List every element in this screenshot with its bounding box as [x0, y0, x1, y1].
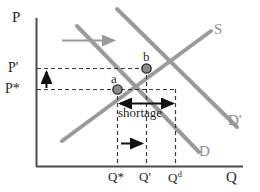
quantity-tick-q-d-superscript: d [177, 169, 182, 179]
axis-label-quantity: Q [226, 170, 237, 185]
point-a-marker [113, 85, 122, 94]
quantity-tick-q-star-text: Q* [108, 169, 124, 184]
axis-label-price: P [12, 10, 20, 25]
curve-label-demand-shifted: D' [228, 113, 242, 128]
point-label-a: a [111, 72, 117, 85]
point-label-b: b [143, 50, 150, 63]
supply-demand-chart: P Q P' P* Q* Q' Qd S D D' a b shortage [0, 0, 260, 192]
quantity-tick-q-d: Qd [168, 170, 182, 184]
quantity-tick-q-star: Q* [108, 170, 124, 183]
price-tick-p-prime: P' [8, 61, 18, 75]
curve-label-supply: S [214, 22, 222, 37]
shortage-label: shortage [118, 106, 162, 119]
curve-label-demand: D [199, 144, 210, 159]
quantity-tick-q-prime: Q' [139, 170, 151, 183]
quantity-tick-q-prime-text: Q' [139, 169, 151, 184]
point-b-marker [142, 64, 151, 73]
quantity-tick-q-d-text: Q [168, 170, 177, 185]
price-tick-p-star: P* [5, 82, 20, 96]
